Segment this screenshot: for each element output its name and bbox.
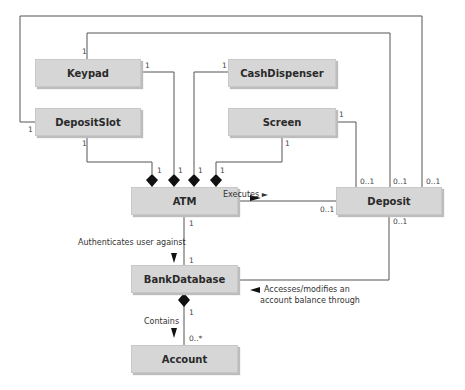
arrow-down-icon <box>171 328 177 338</box>
mult-atm-1d: 1 <box>220 166 225 175</box>
arrow-left-icon <box>250 287 260 293</box>
class-bankdatabase[interactable]: BankDatabase <box>131 265 238 293</box>
diamond-icon <box>210 174 222 187</box>
arrow-down-icon <box>171 253 177 263</box>
mult-depositslot-bottom: 1 <box>82 139 87 148</box>
mult-deposit-keypad: 0..1 <box>393 177 407 186</box>
line-screen-deposit <box>336 122 356 187</box>
class-account[interactable]: Account <box>131 345 238 373</box>
mult-keypad-top: 1 <box>82 47 87 56</box>
diamond-icon <box>178 293 190 307</box>
contains-label: Contains <box>144 317 179 327</box>
mult-atm-1c: 1 <box>198 166 203 175</box>
diamond-icon <box>188 174 200 187</box>
mult-atm-1b: 1 <box>178 166 183 175</box>
accesses-label-line2: account balance through <box>260 296 360 306</box>
executes-label: Executes ► <box>223 190 268 200</box>
mult-keypad-right: 1 <box>145 61 150 70</box>
mult-bank-account: 1 <box>189 308 194 317</box>
mult-deposit-bank: 0..1 <box>393 217 407 226</box>
mult-atm-bank: 1 <box>189 219 194 228</box>
mult-account-bank: 0..* <box>189 334 202 343</box>
mult-cashdispenser-left: 1 <box>222 61 227 70</box>
mult-deposit-screen: 0..1 <box>360 177 374 186</box>
class-keypad[interactable]: Keypad <box>35 59 141 87</box>
diamond-icon <box>146 174 158 187</box>
mult-atm-1a: 1 <box>157 166 162 175</box>
mult-depositslot-left: 1 <box>28 125 33 134</box>
mult-deposit-depositslot: 0..1 <box>426 177 440 186</box>
uml-class-diagram: Keypad CashDispenser DepositSlot Screen … <box>0 0 465 390</box>
class-atm[interactable]: ATM <box>131 187 238 215</box>
mult-screen-bottom: 1 <box>285 139 290 148</box>
class-screen[interactable]: Screen <box>228 108 336 136</box>
mult-deposit-atm: 0..1 <box>320 205 334 214</box>
class-deposit[interactable]: Deposit <box>336 187 442 215</box>
class-depositslot[interactable]: DepositSlot <box>35 108 141 136</box>
class-cashdispenser[interactable]: CashDispenser <box>228 59 336 87</box>
line-depositslot-deposit <box>20 16 422 187</box>
accesses-label-line1: Accesses/modifies an <box>264 285 350 295</box>
mult-screen-right: 1 <box>339 110 344 119</box>
diamond-icon <box>168 174 180 187</box>
authenticates-label: Authenticates user against <box>78 238 186 248</box>
mult-bank-atm: 1 <box>189 256 194 265</box>
